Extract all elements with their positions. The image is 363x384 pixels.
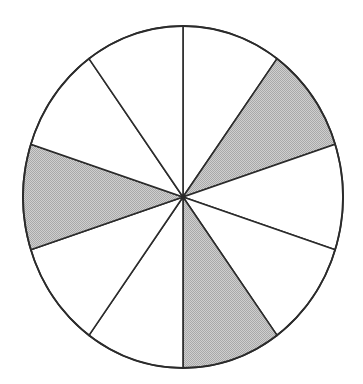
fraction-circle-figure — [0, 0, 363, 384]
pie-diagram — [0, 0, 363, 384]
sector-group — [23, 26, 343, 368]
